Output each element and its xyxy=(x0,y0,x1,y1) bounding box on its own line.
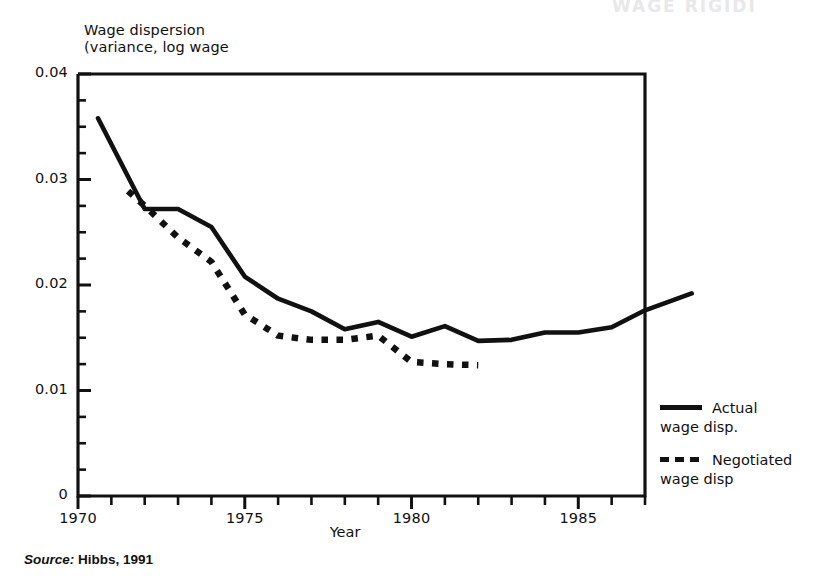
y-tick-label: 0.03 xyxy=(0,170,68,186)
source-note: Source: Hibbs, 1991 xyxy=(24,552,153,567)
legend-swatch-solid-icon xyxy=(660,405,702,410)
chart-figure: Wage dispersion (variance, log wage 00.0… xyxy=(0,0,814,586)
x-axis-title: Year xyxy=(0,524,690,540)
legend-swatch-dashed-icon xyxy=(660,457,702,462)
axis-ticks xyxy=(78,74,645,509)
y-tick-label: 0 xyxy=(0,486,68,502)
chart-legend: Actual wage disp.Negotiated wage disp xyxy=(660,398,810,502)
data-series xyxy=(98,118,692,365)
source-value: Hibbs, 1991 xyxy=(78,552,153,567)
plot-frame xyxy=(78,74,645,496)
source-label: Source: xyxy=(24,552,74,567)
legend-item: Actual wage disp. xyxy=(660,398,810,436)
y-tick-label: 0.04 xyxy=(0,64,68,80)
series-line-2 xyxy=(98,118,692,341)
y-tick-label: 0.02 xyxy=(0,275,68,291)
series-line-1 xyxy=(128,191,478,365)
y-tick-label: 0.01 xyxy=(0,381,68,397)
legend-item: Negotiated wage disp xyxy=(660,450,810,488)
axes xyxy=(78,74,645,496)
